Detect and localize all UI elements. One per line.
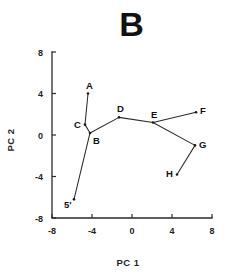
x-tick-label: 4 [169, 226, 174, 236]
data-line-segment [85, 94, 88, 125]
data-point [194, 144, 197, 147]
data-line-segment [119, 117, 153, 122]
data-point [152, 121, 155, 124]
data-points [73, 92, 198, 200]
x-tick-label: -8 [48, 226, 56, 236]
data-line-segment [177, 145, 195, 174]
data-point-label: C [74, 119, 81, 130]
data-point-label: D [117, 103, 124, 114]
data-line-segment [153, 112, 196, 122]
data-point [195, 111, 198, 114]
x-axis-tick-labels: -8-4048 [48, 226, 215, 236]
data-line-segment [90, 117, 119, 133]
y-tick-label: -4 [35, 172, 43, 182]
y-axis-tick-labels: 840-4-8 [35, 48, 43, 224]
x-tick-label: -4 [88, 226, 96, 236]
data-point [89, 132, 92, 135]
x-tick-label: 8 [209, 226, 214, 236]
data-line-segment [85, 125, 90, 133]
pca-scatter-plot: -8-4048 840-4-8 5'ACBDEFGH PC 1 PC 2 [0, 0, 241, 277]
data-point [87, 92, 90, 95]
data-line-segment [74, 133, 90, 199]
data-point-label: 5' [64, 199, 72, 210]
data-point-label: E [151, 109, 157, 120]
data-line-segments [74, 94, 196, 200]
y-axis-title: PC 2 [5, 128, 16, 151]
pca-figure: B -8-4048 840-4-8 5'ACBDEFGH PC 1 PC 2 [0, 0, 241, 277]
data-line-segment [153, 123, 195, 146]
data-point-label: F [200, 105, 206, 116]
data-point-labels: 5'ACBDEFGH [64, 80, 206, 211]
data-point [84, 123, 87, 126]
x-tick-label: 0 [129, 226, 134, 236]
y-tick-label: 0 [38, 131, 43, 141]
data-point-label: G [199, 139, 206, 150]
data-point-label: B [93, 135, 100, 146]
y-tick-label: -8 [35, 214, 43, 224]
data-point [118, 116, 121, 119]
data-point-label: H [166, 168, 173, 179]
data-point [73, 198, 76, 201]
x-axis-title: PC 1 [116, 257, 139, 268]
y-tick-label: 8 [38, 48, 43, 58]
data-point-label: A [86, 80, 93, 91]
data-point [176, 173, 179, 176]
y-tick-label: 4 [38, 89, 43, 99]
